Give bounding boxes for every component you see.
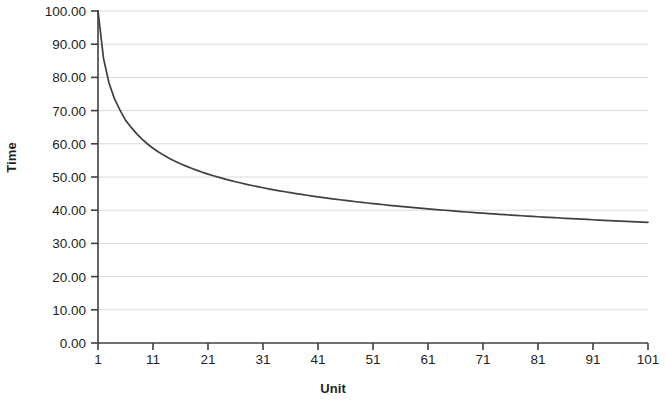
learning-curve-chart: Time 100.0090.0080.0070.0060.0050.0040.0…: [0, 0, 666, 408]
data-series-line-0: [98, 11, 648, 222]
plot-area: [0, 0, 666, 408]
x-axis-title: Unit: [0, 381, 666, 396]
